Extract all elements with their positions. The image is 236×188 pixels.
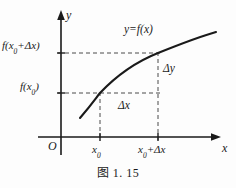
- figure-container: f(x0+Δx) f(x0) y x O x0 x0+Δx y=f(x) Δy …: [0, 0, 236, 188]
- x-axis-name-label: x: [222, 142, 227, 154]
- curve-equation-label: y=f(x): [124, 24, 153, 36]
- coordinate-diagram: [0, 0, 236, 188]
- delta-x-label: Δx: [118, 100, 130, 112]
- origin-label: O: [48, 140, 57, 152]
- x-axis-label-x0-delta-x: x0+Δx: [138, 144, 165, 155]
- figure-caption: 图 1. 15: [0, 163, 236, 181]
- y-axis-label-f-x0-delta-x: f(x0+Δx): [2, 40, 40, 51]
- y-axis-name-label: y: [66, 9, 71, 21]
- function-curve: [80, 32, 216, 118]
- x-axis-label-x0: x0: [92, 144, 101, 155]
- y-axis-arrowhead: [57, 10, 65, 20]
- delta-y-label: Δy: [163, 63, 175, 75]
- y-axis-label-f-x0: f(x0): [20, 81, 39, 92]
- x-axis-arrowhead: [211, 133, 221, 141]
